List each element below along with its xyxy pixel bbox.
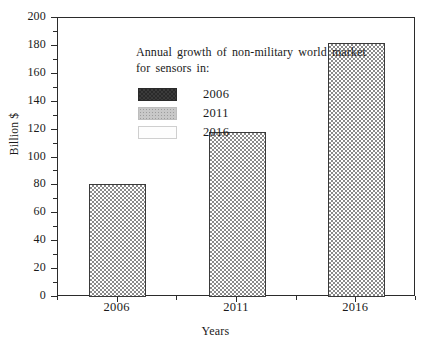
legend-entry: 2016 (136, 123, 372, 142)
y-axis-tick-label: 100 (27, 149, 46, 164)
y-axis-tick-label: 0 (40, 288, 46, 303)
x-axis-title: Years (0, 324, 431, 339)
legend-entry-label: 2006 (203, 87, 229, 102)
x-axis-tick-label: 2006 (72, 300, 162, 315)
legend-entry-group: 200620112016 (136, 85, 372, 142)
legend-title: Annual growth of non-military world mark… (136, 44, 368, 76)
y-axis-tick-label: 140 (27, 93, 46, 108)
legend-entry-label: 2016 (203, 125, 229, 140)
x-axis-minor-tick-mark (296, 296, 297, 300)
legend-swatch-icon (138, 88, 177, 101)
y-axis-tick-label: 120 (27, 121, 46, 136)
legend-swatch-icon (138, 126, 177, 139)
y-axis-title: Billion $ (8, 84, 20, 184)
y-axis-tick-label: 60 (34, 204, 46, 219)
y-axis-tick-label: 40 (34, 232, 46, 247)
bar-chart-figure: Billion $ 200180160140120100806040200 An… (0, 0, 431, 345)
y-axis-tick-label: 180 (27, 37, 46, 52)
y-axis-tick-label: 80 (34, 176, 46, 191)
plot-area: Annual growth of non-military world mark… (57, 17, 415, 296)
legend-entry: 2006 (136, 85, 372, 104)
y-axis-tick-label: 200 (27, 9, 46, 24)
x-axis-minor-tick-mark (57, 296, 58, 300)
y-axis-tick-label: 160 (27, 65, 46, 80)
y-axis-tick-label: 20 (34, 260, 46, 275)
bar (209, 132, 266, 297)
x-axis-tick-label: 2016 (310, 300, 400, 315)
chart-legend: Annual growth of non-military world mark… (136, 44, 372, 142)
x-axis-tick-label: 2011 (191, 300, 281, 315)
bar (89, 184, 146, 297)
legend-entry: 2011 (136, 104, 372, 123)
x-axis-minor-tick-mark (415, 296, 416, 300)
legend-entry-label: 2011 (203, 106, 229, 121)
x-axis-minor-tick-mark (176, 296, 177, 300)
legend-swatch-icon (138, 107, 177, 120)
